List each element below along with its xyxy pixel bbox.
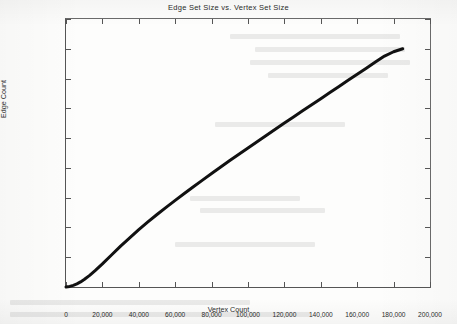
- x-tick-label: 80,000: [202, 311, 222, 318]
- x-tick-label: 0: [64, 311, 68, 318]
- plot-area: 0200,000400,000600,000800,0001e+061.2e+0…: [65, 18, 431, 288]
- x-tick-label: 200,000: [418, 311, 442, 318]
- x-tick-label: 120,000: [272, 311, 296, 318]
- data-series-line: [66, 49, 403, 287]
- chart-page: Edge Set Size vs. Vertex Set Size Edge C…: [0, 0, 457, 324]
- chart-title: Edge Set Size vs. Vertex Set Size: [0, 3, 457, 12]
- x-tick-label: 100,000: [236, 311, 260, 318]
- x-tick-label: 60,000: [165, 311, 185, 318]
- x-tick-mark: [430, 282, 431, 287]
- y-axis-label: Edge Count: [0, 80, 8, 118]
- data-series-layer: [66, 19, 430, 287]
- x-tick-mark: [430, 19, 431, 24]
- y-tick-mark: [425, 287, 430, 288]
- x-tick-label: 20,000: [92, 311, 112, 318]
- x-tick-label: 180,000: [382, 311, 406, 318]
- x-tick-label: 160,000: [345, 311, 369, 318]
- x-tick-label: 40,000: [129, 311, 149, 318]
- x-tick-label: 140,000: [309, 311, 333, 318]
